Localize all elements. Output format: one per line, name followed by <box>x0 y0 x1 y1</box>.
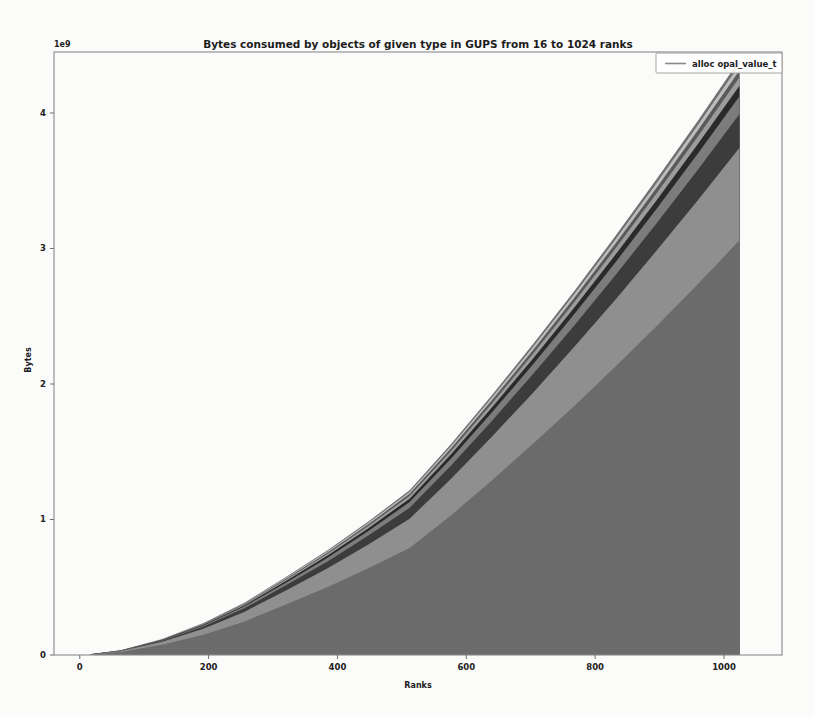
chart-title: Bytes consumed by objects of given type … <box>203 38 633 50</box>
y-tick-label: 1 <box>40 514 46 524</box>
x-tick-label: 800 <box>586 662 604 672</box>
y-axis-label: Bytes <box>24 347 33 373</box>
y-tick-label: 0 <box>40 650 46 660</box>
y-axis-ticks: 01234 <box>40 108 54 660</box>
x-tick-label: 400 <box>329 662 347 672</box>
matplotlib-figure: Bytes consumed by objects of given type … <box>0 0 814 716</box>
area-series-group <box>90 60 739 655</box>
legend-entry-label: alloc opal_value_t <box>692 59 777 69</box>
legend[interactable]: alloc opal_value_t <box>656 53 782 73</box>
x-axis-ticks: 02004006008001000 <box>77 655 736 672</box>
stacked-area-chart: Bytes consumed by objects of given type … <box>0 0 814 716</box>
x-axis-label: Ranks <box>404 681 432 690</box>
y-tick-label: 2 <box>40 379 46 389</box>
y-axis-exponent-label: 1e9 <box>54 40 71 49</box>
x-tick-label: 0 <box>77 662 83 672</box>
x-tick-label: 1000 <box>712 662 736 672</box>
y-tick-label: 4 <box>40 108 46 118</box>
y-tick-label: 3 <box>40 243 46 253</box>
x-tick-label: 600 <box>457 662 475 672</box>
x-tick-label: 200 <box>200 662 218 672</box>
